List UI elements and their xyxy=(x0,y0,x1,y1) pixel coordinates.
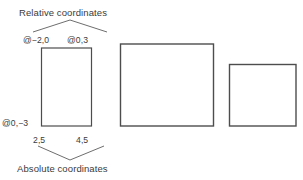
absolute-caret-icon xyxy=(38,146,104,160)
relative-bottom-left-label: @0,−3 xyxy=(2,119,28,128)
relative-caret-icon xyxy=(33,20,107,32)
small-rectangle xyxy=(230,65,297,127)
absolute-bottom-left-label: 2,5 xyxy=(33,136,45,145)
annotated-rectangle xyxy=(42,48,92,126)
absolute-coordinates-title: Absolute coordinates xyxy=(17,164,108,174)
diagram-canvas xyxy=(0,0,303,180)
coordinate-diagram: Relative coordinates @−2,0 @0,3 @0,−3 2,… xyxy=(0,0,303,180)
large-rectangle xyxy=(121,44,214,126)
relative-top-left-label: @−2,0 xyxy=(23,36,49,45)
absolute-bottom-right-label: 4,5 xyxy=(76,136,88,145)
relative-coordinates-title: Relative coordinates xyxy=(19,8,107,18)
relative-top-right-label: @0,3 xyxy=(67,36,88,45)
